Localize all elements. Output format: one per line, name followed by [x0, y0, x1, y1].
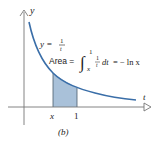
curve-label-lhs: y = [39, 39, 52, 49]
curve-label-denominator: t [60, 46, 62, 52]
curve-label-numerator: 1 [60, 37, 64, 45]
integral-lower-limit: x [86, 65, 91, 73]
t-axis-arrow-icon [144, 103, 151, 111]
integral-upper-limit: 1 [89, 48, 93, 56]
integral-differential: dt [102, 57, 109, 67]
figure-diagram: y t y = 1 t Area = ∫ 1 x 1 t dt = − ln x… [0, 0, 161, 144]
integrand-denominator: t [96, 62, 98, 68]
y-axis-label: y [29, 5, 35, 16]
integral-sign: ∫ [79, 53, 86, 73]
t-axis-label: t [143, 92, 146, 102]
shaded-area [53, 73, 77, 107]
tick-label-1: 1 [74, 111, 79, 121]
area-result: = − ln x [113, 57, 141, 67]
integrand-numerator: 1 [96, 55, 99, 61]
figure-caption: (b) [58, 127, 69, 137]
tick-label-x: x [49, 111, 54, 121]
area-label-prefix: Area = [49, 56, 74, 66]
